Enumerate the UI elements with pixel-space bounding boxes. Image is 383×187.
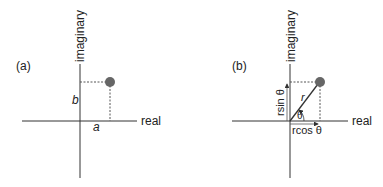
complex-plane-diagram: (a) real imaginary a b (b) real imaginar…	[0, 0, 383, 187]
angle-label: θ	[297, 110, 303, 121]
panel-label: (a)	[16, 59, 31, 73]
x-axis-label: real	[141, 114, 161, 128]
imag-part-label: b	[72, 93, 79, 107]
panel-b: (b) real imaginary r θ rcos θ rsin θ	[232, 10, 372, 178]
x-component-label: rcos θ	[292, 124, 322, 136]
real-part-label: a	[93, 120, 100, 134]
complex-point	[105, 77, 115, 87]
panel-a: (a) real imaginary a b	[16, 10, 161, 178]
y-component-label: rsin θ	[274, 89, 286, 116]
panel-label: (b)	[232, 59, 247, 73]
complex-point	[315, 77, 325, 87]
x-axis-label: real	[352, 114, 372, 128]
y-axis-label: imaginary	[73, 10, 87, 62]
y-axis-label: imaginary	[284, 10, 298, 62]
